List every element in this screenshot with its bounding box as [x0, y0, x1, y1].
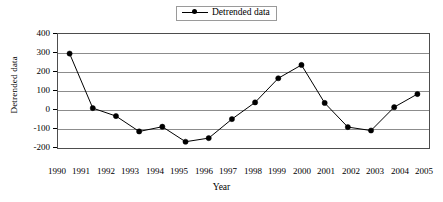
y-tick-label-0: 0 [20, 105, 50, 114]
series-line-detrended-data [70, 54, 418, 142]
y-tick-label-300: 300 [20, 48, 50, 57]
data-point-marker [206, 136, 211, 141]
data-point-marker [415, 91, 420, 96]
legend-line-marker-icon [182, 8, 208, 17]
data-point-marker [160, 124, 165, 129]
x-tick-label-2005: 2005 [409, 167, 439, 176]
y-tick-label-100: 100 [20, 86, 50, 95]
data-point-marker [368, 128, 373, 133]
y-tick-label-minus-200: -200 [20, 143, 50, 152]
data-point-marker [67, 51, 72, 56]
data-point-marker [345, 125, 350, 130]
y-tick-label-minus-100: -100 [20, 124, 50, 133]
data-point-marker [276, 76, 281, 81]
chart-legend: Detrended data [176, 6, 277, 21]
data-point-marker [113, 113, 118, 118]
chart-canvas [58, 34, 429, 148]
data-point-marker [90, 106, 95, 111]
y-tick-label-400: 400 [20, 29, 50, 38]
data-point-marker [392, 105, 397, 110]
data-point-marker [252, 100, 257, 105]
x-axis-title: Year [0, 182, 443, 192]
data-point-marker [229, 117, 234, 122]
gridlines [58, 54, 429, 130]
data-point-marker [322, 100, 327, 105]
y-tick-label-200: 200 [20, 67, 50, 76]
data-point-marker [183, 139, 188, 144]
data-point-marker [137, 129, 142, 134]
legend-item-label: Detrended data [212, 8, 270, 18]
plot-area [57, 33, 430, 149]
data-point-marker [299, 62, 304, 67]
detrended-data-line-chart: Detrended data Detrended data 400 300 20… [0, 0, 443, 202]
